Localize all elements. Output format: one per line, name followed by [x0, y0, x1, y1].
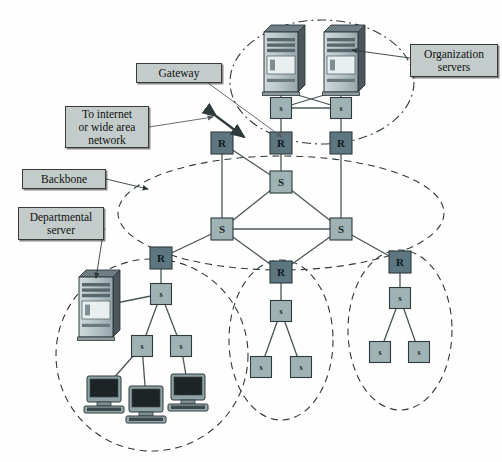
- callout-internet: To internet or wide area network: [65, 106, 149, 148]
- node-label: s: [279, 307, 282, 316]
- network-nodes: ssRRRSSSRRRsssssssss: [132, 98, 430, 378]
- node-label: s: [159, 290, 162, 299]
- callout-organization: Organization servers: [410, 44, 498, 77]
- pc-left: [84, 376, 124, 413]
- dept-server: [78, 270, 121, 341]
- node-dept-s-main[interactable]: s: [151, 284, 172, 305]
- callout-departmental: Departmental server: [18, 207, 104, 240]
- node-mid-s-a[interactable]: s: [251, 357, 272, 378]
- network-diagram: ssRRRSSSRRRsssssssss GatewayTo internet …: [0, 0, 502, 462]
- node-label: R: [157, 252, 166, 264]
- node-dept-s-a[interactable]: s: [132, 336, 153, 357]
- callout-backbone: Backbone: [22, 169, 106, 189]
- callout-gateway: Gateway: [136, 63, 222, 83]
- node-label: s: [398, 294, 401, 303]
- node-mid-s-main[interactable]: s: [271, 301, 292, 322]
- node-label: S: [219, 223, 225, 235]
- node-label: s: [339, 104, 342, 113]
- node-org-s-right[interactable]: s: [331, 98, 352, 119]
- organization-servers-group: [230, 20, 414, 144]
- node-label: s: [259, 363, 262, 372]
- org-server-right: [323, 25, 366, 96]
- node-dept-s-b[interactable]: s: [171, 336, 192, 357]
- node-r-top-left[interactable]: R: [211, 132, 233, 154]
- node-bb-s-left[interactable]: S: [211, 218, 233, 240]
- node-right-s-b[interactable]: s: [409, 342, 430, 363]
- node-r-top-right[interactable]: R: [330, 132, 352, 154]
- node-bb-s-right[interactable]: S: [330, 218, 352, 240]
- node-r-bot-left[interactable]: R: [150, 247, 172, 269]
- node-r-bot-mid[interactable]: R: [270, 261, 292, 283]
- workstation-icons: [84, 374, 208, 423]
- node-bb-s-top[interactable]: S: [270, 171, 292, 193]
- node-label: R: [277, 266, 286, 278]
- node-mid-s-b[interactable]: s: [291, 357, 312, 378]
- node-r-bot-right[interactable]: R: [389, 251, 411, 273]
- node-label: s: [140, 342, 143, 351]
- node-label: R: [337, 137, 346, 149]
- node-right-s-a[interactable]: s: [370, 342, 391, 363]
- backbone-leader: [106, 179, 148, 189]
- node-org-s-left[interactable]: s: [271, 98, 292, 119]
- internet-leader: [149, 117, 213, 127]
- node-label: S: [278, 176, 284, 188]
- node-label: s: [417, 348, 420, 357]
- node-label: s: [179, 342, 182, 351]
- node-label: S: [338, 223, 344, 235]
- org-server-left: [263, 25, 306, 96]
- pc-right: [168, 374, 208, 411]
- node-label: s: [279, 104, 282, 113]
- pc-middle: [126, 386, 166, 423]
- node-right-s-main[interactable]: s: [390, 288, 411, 309]
- node-label: s: [299, 363, 302, 372]
- node-label: R: [218, 137, 227, 149]
- node-label: R: [277, 137, 286, 149]
- node-label: s: [378, 348, 381, 357]
- node-r-top-mid[interactable]: R: [270, 132, 292, 154]
- node-label: R: [396, 256, 405, 268]
